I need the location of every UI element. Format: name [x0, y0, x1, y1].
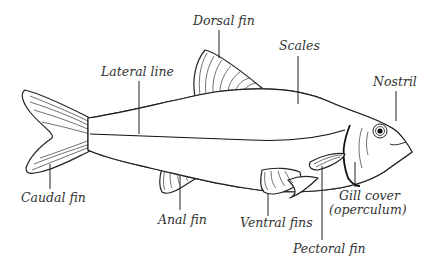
- eye: [373, 124, 387, 138]
- label-operculum: (operculum): [329, 202, 407, 217]
- label-caudal-fin: Caudal fin: [21, 190, 86, 205]
- caudal-fin-shape: [22, 90, 92, 173]
- label-anal-fin: Anal fin: [157, 212, 207, 227]
- label-pectoral-fin: Pectoral fin: [292, 241, 366, 256]
- label-ventral-fins: Ventral fins: [240, 215, 313, 230]
- label-scales: Scales: [279, 38, 320, 53]
- label-dorsal-fin: Dorsal fin: [192, 13, 255, 28]
- label-lateral-line: Lateral line: [100, 64, 174, 79]
- fish-anatomy-diagram: Dorsal fin Scales Lateral line Nostril C…: [0, 0, 433, 271]
- label-gill-cover: Gill cover: [339, 188, 401, 203]
- label-nostril: Nostril: [372, 74, 417, 89]
